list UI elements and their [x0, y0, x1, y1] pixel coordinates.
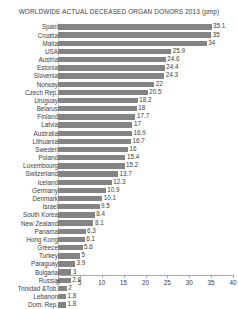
x-axis-tick-label: 30 [179, 279, 199, 287]
x-axis-tick-label: 5 [70, 279, 90, 287]
bar-container [58, 139, 131, 144]
bar-container [58, 98, 138, 103]
category-label: Spain [0, 23, 58, 30]
value-label: 17.7 [135, 112, 149, 119]
bar-container [58, 90, 148, 95]
value-label: 5 [80, 251, 85, 258]
bar [58, 212, 95, 217]
value-label: 16.7 [131, 137, 145, 144]
bar-container [58, 82, 154, 87]
bar-row: Australia16.9 [0, 129, 238, 137]
bar-container [58, 180, 112, 185]
category-label: USA [0, 48, 58, 55]
value-label: 35 [211, 31, 220, 38]
bar [58, 163, 125, 168]
bar-row: Denmark10.1 [0, 195, 238, 203]
bar [58, 24, 212, 29]
value-label: 3.9 [75, 259, 85, 266]
category-label: Switzerland [0, 170, 58, 177]
bar-row: Belarus18 [0, 105, 238, 113]
category-label: New Zealand [0, 220, 58, 227]
bar-row: Estonia24.4 [0, 64, 238, 72]
x-axis-tick-label: 25 [157, 279, 177, 287]
bar [58, 41, 207, 46]
bar-row: Paraguay3.9 [0, 260, 238, 268]
category-label: Panama [0, 228, 58, 235]
bar [58, 171, 118, 176]
x-axis-tick-label: 35 [201, 279, 221, 287]
bar-container [58, 106, 137, 111]
value-label: 16 [128, 145, 137, 152]
value-label: 8.4 [95, 210, 105, 217]
x-axis-tick [167, 275, 168, 278]
value-label: 20.5 [148, 88, 162, 95]
bar [58, 196, 102, 201]
bar-row: Finland17.7 [0, 113, 238, 121]
bar-container [58, 49, 171, 54]
bar-row: Latvia17 [0, 121, 238, 129]
category-label: Uruguay [0, 97, 58, 104]
x-axis-tick [124, 275, 125, 278]
category-label: Poland [0, 154, 58, 161]
bar [58, 90, 148, 95]
value-label: 15.4 [125, 153, 139, 160]
category-label: Belarus [0, 105, 58, 112]
category-label: Australia [0, 130, 58, 137]
value-label: 12.3 [112, 178, 126, 185]
bar-container [58, 114, 135, 119]
bar-container [58, 220, 93, 225]
value-label: 6.1 [85, 235, 95, 242]
category-label: South Korea [0, 211, 58, 218]
category-label: Finland [0, 113, 58, 120]
bar [58, 204, 100, 209]
x-axis: 0510152025303540 [0, 275, 238, 306]
bar-container [58, 237, 85, 242]
x-axis-tick [80, 275, 81, 278]
plot-area: Spain35.1Croatia35Malta34USA25.9Austria2… [0, 23, 238, 275]
bar [58, 73, 164, 78]
value-label: 24.6 [166, 55, 180, 62]
category-label: Denmark [0, 195, 58, 202]
bar-row: Slovenia24.3 [0, 72, 238, 80]
category-label: Turkey [0, 252, 58, 259]
bar [58, 139, 131, 144]
value-label: 6.3 [86, 227, 96, 234]
x-axis-tick [211, 275, 212, 278]
value-label: 16.9 [132, 129, 146, 136]
category-label: Austria [0, 56, 58, 63]
bar [58, 57, 166, 62]
category-label: Germany [0, 187, 58, 194]
category-label: Greece [0, 244, 58, 251]
bar [58, 32, 211, 37]
category-label: Sweden [0, 146, 58, 153]
bar [58, 180, 112, 185]
bar-container [58, 163, 125, 168]
bar-container [58, 65, 165, 70]
bar [58, 220, 93, 225]
x-axis-tick [189, 275, 190, 278]
category-label: Latvia [0, 121, 58, 128]
value-label: 3 [71, 268, 76, 275]
bar-container [58, 212, 95, 217]
bar-row: Germany10.9 [0, 186, 238, 194]
value-label: 10.1 [102, 194, 116, 201]
bar [58, 188, 106, 193]
bar-row: USA25.9 [0, 48, 238, 56]
bar-row: New Zealand8.1 [0, 219, 238, 227]
value-label: 35.1 [212, 22, 226, 29]
bar-container [58, 188, 106, 193]
bar [58, 82, 154, 87]
bar-row: Greece5.6 [0, 244, 238, 252]
x-axis-tick [102, 275, 103, 278]
bar-container [58, 57, 166, 62]
bar [58, 261, 75, 266]
bar-container [58, 245, 83, 250]
bar-container [58, 24, 212, 29]
x-axis-tick-label: 15 [114, 279, 134, 287]
category-label: Malta [0, 40, 58, 47]
bar [58, 114, 135, 119]
bar-container [58, 155, 125, 160]
value-label: 17 [132, 120, 141, 127]
bar-row: Austria24.6 [0, 56, 238, 64]
